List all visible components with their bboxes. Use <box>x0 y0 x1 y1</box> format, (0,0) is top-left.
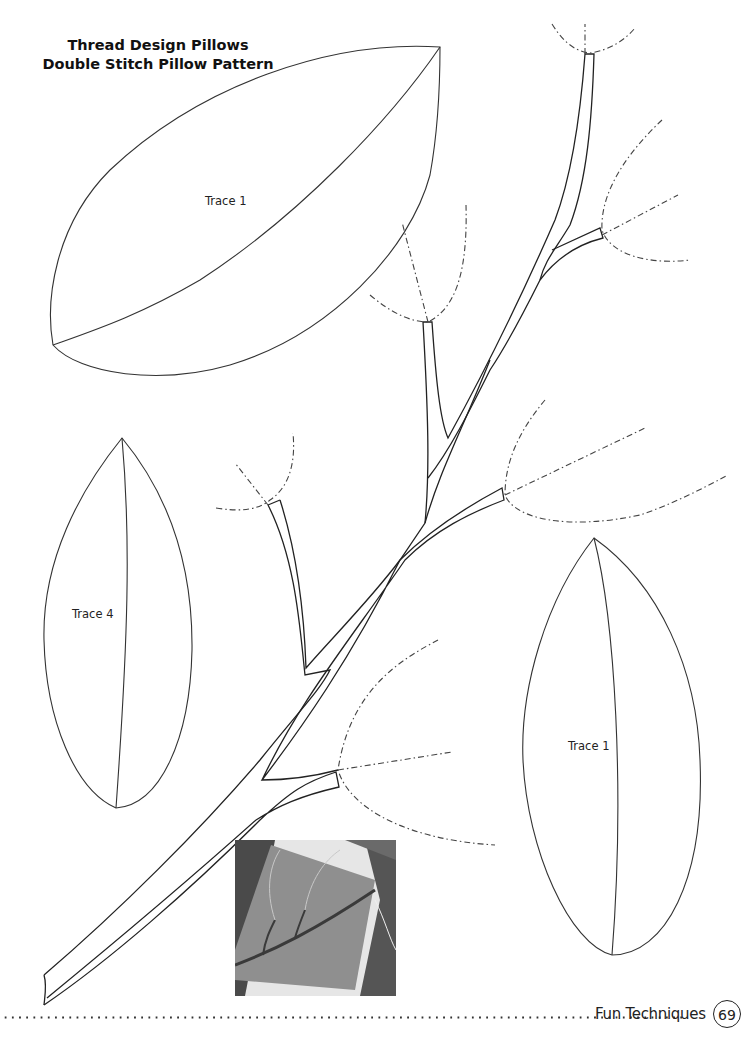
quilted-pillow-sample-photo <box>235 840 396 996</box>
leaf-large-top <box>51 46 440 375</box>
footer-dotted-rule <box>2 1016 682 1019</box>
leaf-left <box>44 438 192 808</box>
leaf-right <box>523 538 701 955</box>
trace-label-left: Trace 4 <box>72 607 113 621</box>
trace-label-right: Trace 1 <box>568 739 609 753</box>
page-number: 69 <box>713 1000 741 1028</box>
trace-label-large-top: Trace 1 <box>205 194 246 208</box>
photo-image <box>235 840 396 996</box>
footer-section-title: Fun Techniques <box>595 1005 706 1023</box>
